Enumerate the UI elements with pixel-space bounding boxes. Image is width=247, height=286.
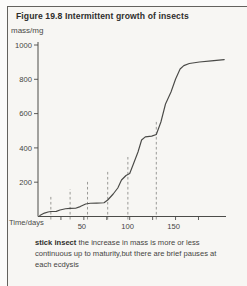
svg-text:800: 800	[19, 75, 32, 84]
x-axis-label: Time/days	[9, 218, 44, 227]
svg-text:600: 600	[19, 109, 32, 118]
svg-text:200: 200	[19, 178, 32, 187]
svg-text:1000: 1000	[15, 41, 32, 50]
svg-text:400: 400	[19, 144, 32, 153]
figure-caption: stick insect the increase in mass is mor…	[35, 237, 221, 270]
svg-text:150: 150	[167, 222, 180, 231]
svg-text:50: 50	[78, 222, 86, 231]
svg-text:100: 100	[121, 222, 134, 231]
caption-species: stick insect	[35, 238, 76, 247]
